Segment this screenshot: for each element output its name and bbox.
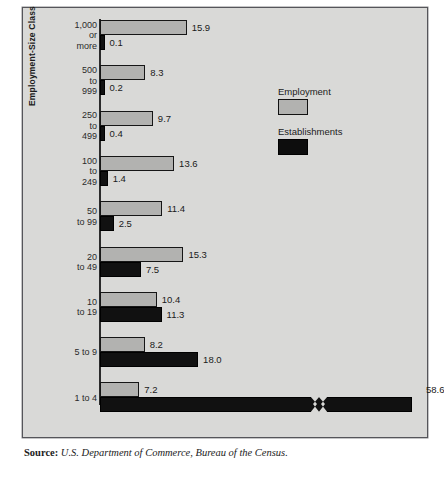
bar-pair: 13.61.4 [100,156,427,186]
bar-group: 1,000 or more15.90.1 [23,20,427,50]
bar-value-label: 7.2 [144,382,157,397]
bar-employment [100,247,183,262]
category-label: 10 to 19 [27,297,97,318]
bar-employment [100,292,157,307]
bar-value-label: 11.3 [167,307,185,322]
bar-employment [100,65,145,80]
bar-establishments [100,35,105,50]
bar-value-label: 0.1 [110,35,123,50]
category-label: 1 to 4 [27,393,97,404]
bar-group: 250 to 4999.70.4 [23,111,427,141]
legend-swatch-employment [278,99,308,115]
bar-group: 20 to 4915.37.5 [23,247,427,277]
bar-value-label: 15.9 [192,20,211,35]
category-label: 1,000 or more [27,20,97,52]
bar-value-label: 58.6 [426,382,444,397]
category-label: 250 to 499 [27,110,97,142]
bar-pair: 11.42.5 [100,201,427,231]
bar-value-label: 10.4 [162,292,181,307]
bar-pair: 8.218.0 [100,337,427,367]
bar-group: 50 to 9911.42.5 [23,201,427,231]
bar-value-label: 7.5 [146,262,159,277]
source-label: Source: [24,447,58,458]
bar-establishments [100,216,114,231]
bar-employment [100,337,145,352]
category-label: 100 to 249 [27,156,97,188]
category-label: 50 to 99 [27,206,97,227]
legend-label-establishments: Establishments [278,126,342,137]
source-note: Source: U.S. Department of Commerce, Bur… [24,447,288,458]
bar-value-label: 13.6 [179,156,198,171]
bar-establishments [100,80,105,95]
legend-swatch-establishments [278,139,308,155]
bar-pair: 15.90.1 [100,20,427,50]
bar-employment [100,201,162,216]
plot-area: Employment-Size Class 1,000 or more15.90… [23,8,427,437]
bar-pair: 10.411.3 [100,292,427,322]
bar-establishments [100,352,198,367]
bar-rows: 1,000 or more15.90.1500 to 9998.30.2250 … [23,8,427,437]
bar-employment [100,382,139,397]
legend-label-employment: Employment [278,86,342,97]
bar-employment [100,111,153,126]
chart-legend: Employment Establishments [278,86,342,166]
bar-value-label: 11.4 [167,201,185,216]
bar-value-label: 1.4 [113,171,126,186]
bar-value-label: 18.0 [203,352,222,367]
bar-pair: 9.70.4 [100,111,427,141]
chart-panel: Employment-Size Class 1,000 or more15.90… [22,7,428,438]
category-label: 500 to 999 [27,65,97,97]
bar-establishments [100,262,141,277]
bar-pair: 7.258.6 [100,382,427,412]
bar-group: 10 to 1910.411.3 [23,292,427,322]
bar-establishments [100,126,105,141]
source-citation: U.S. Department of Commerce, Bureau of t… [61,447,288,458]
figure-root: Employment-Size Class 1,000 or more15.90… [0,0,444,492]
bar-value-label: 8.3 [150,65,163,80]
bar-value-label: 0.2 [110,80,123,95]
bar-pair: 15.37.5 [100,247,427,277]
bar-group: 500 to 9998.30.2 [23,65,427,95]
category-label: 20 to 49 [27,252,97,273]
bar-pair: 8.30.2 [100,65,427,95]
bar-establishments [100,307,162,322]
bar-value-label: 15.3 [188,247,207,262]
bar-value-label: 2.5 [119,216,132,231]
category-label: 5 to 9 [27,347,97,358]
bar-establishments [100,397,412,412]
bar-value-label: 8.2 [150,337,163,352]
bar-group: 100 to 24913.61.4 [23,156,427,186]
bar-employment [100,20,187,35]
bar-value-label: 0.4 [110,126,123,141]
bar-value-label: 9.7 [158,111,171,126]
bar-group: 1 to 47.258.6 [23,382,427,412]
bar-establishments [100,171,108,186]
bar-group: 5 to 98.218.0 [23,337,427,367]
bar-employment [100,156,174,171]
